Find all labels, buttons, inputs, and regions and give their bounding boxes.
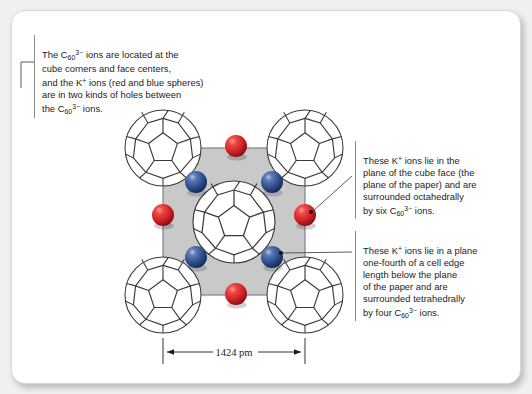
note-tetrahedral-sites-text: These K+ ions lie in a plane one-fourth … <box>363 246 478 318</box>
leader-dot-tetrahedral <box>279 251 283 255</box>
dimension-label: 1424 pm <box>215 347 252 358</box>
leader-line-top-note <box>21 62 34 88</box>
k-tetrahedral-bottom-left <box>185 246 207 271</box>
note-octahedral-sites: These K+ ions lie in the plane of the cu… <box>355 141 523 219</box>
k-tetrahedral-bottom-right <box>261 246 283 271</box>
note-cell-description: The C603− ions are located at the cube c… <box>34 35 267 118</box>
k-tetrahedral-top-right <box>261 171 283 196</box>
note-cell-description-text: The C603− ions are located at the cube c… <box>42 50 204 114</box>
k-octahedral-left <box>152 204 174 229</box>
k-octahedral-bottom <box>225 283 247 308</box>
page-background: 1424 pm The C603− ions are located at th… <box>0 0 532 394</box>
leader-dot-octahedral <box>309 210 313 214</box>
k-tetrahedral-top-left <box>185 171 207 196</box>
k-octahedral-right <box>294 204 316 229</box>
note-tetrahedral-sites: These K+ ions lie in a plane one-fourth … <box>355 231 523 321</box>
k-octahedral-top <box>225 135 247 160</box>
note-octahedral-sites-text: These K+ ions lie in the plane of the cu… <box>363 156 477 216</box>
